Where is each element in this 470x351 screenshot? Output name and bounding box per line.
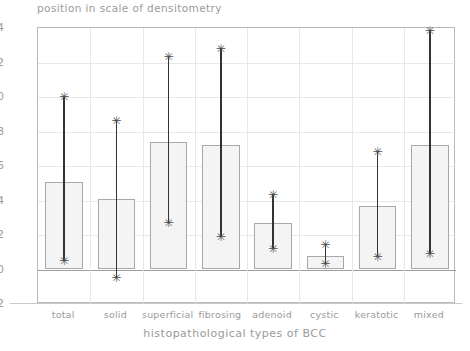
x-tick-fibrosing: fibrosing [194,309,246,320]
x-axis-title: histopathological types of BCC [0,327,470,340]
gridline-vertical [247,28,248,304]
errorbar-line-keratotic [377,152,379,257]
densitometry-bar-chart: position in scale of densitometry ✳✳✳✳✳✳… [0,0,470,351]
errorbar-upper-cap-superficial: ✳ [164,51,174,63]
x-tick-keratotic: keratotic [351,309,403,320]
bottom-axis-rule [10,303,462,304]
y-tick-4: 4 [0,195,4,206]
errorbar-line-mixed [429,31,431,254]
errorbar-upper-cap-cystic: ✳ [320,239,330,251]
x-tick-superficial: superficial [142,309,194,320]
gridline-vertical [299,28,300,304]
x-tick-total: total [37,309,89,320]
y-tick--2: -2 [0,298,4,309]
y-tick-10: 10 [0,91,4,102]
errorbar-line-total [63,97,65,261]
y-tick-2: 2 [0,229,4,240]
y-tick-12: 12 [0,57,4,68]
x-tick-adenoid: adenoid [246,309,298,320]
errorbar-upper-cap-total: ✳ [59,91,69,103]
errorbar-line-solid [116,121,118,278]
gridline-vertical [352,28,353,304]
plot-area: ✳✳✳✳✳✳✳✳✳✳✳✳✳✳✳✳ [37,27,455,303]
errorbar-lower-cap-keratotic: ✳ [373,251,383,263]
errorbar-upper-cap-keratotic: ✳ [373,146,383,158]
y-tick-8: 8 [0,126,4,137]
x-tick-cystic: cystic [298,309,350,320]
errorbar-line-fibrosing [220,49,222,237]
gridline-vertical [195,28,196,304]
errorbar-upper-cap-fibrosing: ✳ [216,43,226,55]
gridline-vertical [90,28,91,304]
errorbar-lower-cap-mixed: ✳ [425,248,435,260]
errorbar-lower-cap-adenoid: ✳ [268,243,278,255]
errorbar-lower-cap-solid: ✳ [111,272,121,284]
x-tick-solid: solid [89,309,141,320]
errorbar-lower-cap-superficial: ✳ [164,217,174,229]
y-tick-14: 14 [0,22,4,33]
errorbar-lower-cap-fibrosing: ✳ [216,231,226,243]
errorbar-line-superficial [168,57,170,223]
errorbar-line-adenoid [272,195,274,248]
y-axis-title: position in scale of densitometry [37,2,222,14]
errorbar-upper-cap-adenoid: ✳ [268,189,278,201]
y-tick-6: 6 [0,160,4,171]
gridline-vertical [143,28,144,304]
errorbar-upper-cap-solid: ✳ [111,115,121,127]
errorbar-upper-cap-mixed: ✳ [425,25,435,37]
gridline-vertical [404,28,405,304]
x-tick-mixed: mixed [403,309,455,320]
errorbar-lower-cap-total: ✳ [59,255,69,267]
y-tick-0: 0 [0,264,4,275]
errorbar-lower-cap-cystic: ✳ [320,258,330,270]
